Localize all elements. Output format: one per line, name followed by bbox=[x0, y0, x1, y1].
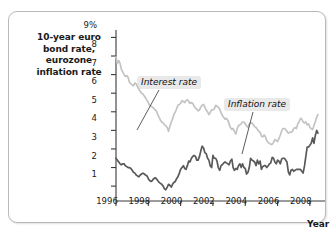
series-paths bbox=[116, 57, 318, 190]
series-line bbox=[116, 130, 318, 189]
x-tick-label: 2004 bbox=[221, 196, 251, 206]
x-tick-label: 2006 bbox=[254, 196, 284, 206]
x-tick-label: 2008 bbox=[286, 196, 316, 206]
chart-figure: 10-year euro bond rate, eurozone inflati… bbox=[0, 0, 336, 239]
x-tick-label: 2002 bbox=[189, 196, 219, 206]
y-tick-label: 2 bbox=[75, 151, 97, 161]
y-tick-label: 8 bbox=[75, 39, 97, 49]
annotation-leader-lines bbox=[137, 90, 253, 154]
y-tick-label: 5 bbox=[75, 95, 97, 105]
y-axis-ticks bbox=[111, 37, 116, 186]
y-tick-label: 1 bbox=[75, 169, 97, 179]
x-tick-label: 1998 bbox=[124, 196, 154, 206]
series-line bbox=[116, 57, 318, 144]
y-tick-label: 9% bbox=[75, 20, 97, 30]
y-tick-label: 6 bbox=[75, 76, 97, 86]
x-tick-label: 2000 bbox=[157, 196, 187, 206]
chart-frame: 10-year euro bond rate, eurozone inflati… bbox=[8, 11, 326, 223]
x-tick-label: 1996 bbox=[92, 196, 122, 206]
y-tick-label: 3 bbox=[75, 132, 97, 142]
y-tick-label: 7 bbox=[75, 58, 97, 68]
y-tick-label: 4 bbox=[75, 113, 97, 123]
